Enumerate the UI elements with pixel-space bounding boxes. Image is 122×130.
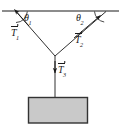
force-label-t1: T1 xyxy=(11,28,20,40)
t2-subscript: 2 xyxy=(80,41,83,48)
force-label-t3: T3 xyxy=(58,65,67,77)
force-label-t2: T2 xyxy=(75,35,84,47)
vector-bar-t1 xyxy=(11,26,18,27)
angle-label-theta1: θ1 xyxy=(24,13,32,25)
theta1-subscript: 1 xyxy=(28,19,31,26)
t3-subscript: 3 xyxy=(63,71,66,78)
angle-label-theta2: θ2 xyxy=(76,13,84,25)
t1-subscript: 1 xyxy=(16,34,19,41)
suspended-block xyxy=(29,98,88,124)
vector-bar-t2 xyxy=(75,33,82,34)
theta2-subscript: 2 xyxy=(80,19,83,26)
force-diagram: θ1 θ2 T1 T2 T3 xyxy=(0,0,122,130)
vector-bar-t3 xyxy=(58,63,65,64)
